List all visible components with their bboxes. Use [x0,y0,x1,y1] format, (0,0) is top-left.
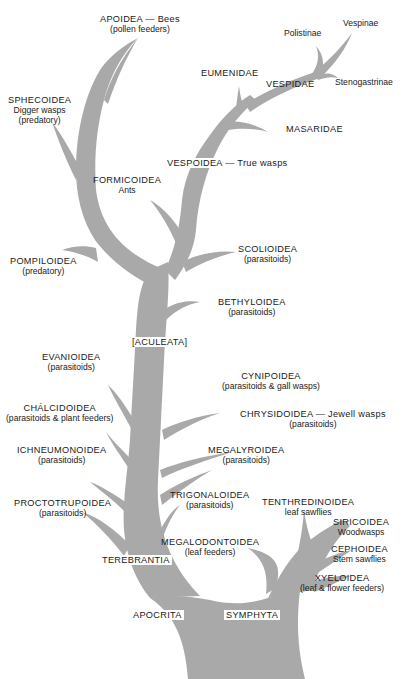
siricoidea-common: Woodwasps [333,527,389,537]
label-eumenidae: EUMENIDAE [201,68,258,78]
label-masaridae: MASARIDAE [286,124,343,134]
xyeloidea-name: XYELOIDEA [300,573,384,583]
pompiloidea-note: (predatory) [10,266,77,276]
vespoidea-name: VESPOIDEA — True wasps [165,158,289,168]
ichneumonoidea-note: (parasitoids) [17,455,106,465]
label-chrysidoidea: CHRYSIDOIDEA — Jewell wasps (parasitoids… [240,409,386,429]
megalodontoidea-note: (leaf feeders) [161,547,259,557]
label-chalcidoidea: CHÁLCIDOIDEA (parasitoids & plant feeder… [6,403,113,423]
branch-chalcidoidea [106,432,132,470]
cynipoidea-note: (parasitoids & gall wasps) [222,381,320,391]
cephoidea-common: Stem sawflies [331,554,388,564]
scolioidea-note: (parasitoids) [238,254,297,264]
label-vespoidea: VESPOIDEA — True wasps [165,158,289,168]
scolioidea-name: SCOLIOIDEA [238,244,297,254]
label-megalodontoidea: MEGALODONTOIDEA (leaf feeders) [161,537,259,557]
formicoidea-common: Ants [93,185,161,195]
tenthredinoidea-name: TENTHREDINOIDEA [262,497,354,507]
label-apocrita: APOCRITA [131,610,184,620]
label-vespidae: VESPIDAE [266,79,314,89]
label-evanioidea: EVANIOIDEA (parasitoids) [42,352,100,372]
megalyroidea-name: MEGALYROIDEA [208,445,284,455]
cynipoidea-name: CYNIPOIDEA [222,371,320,381]
polistinae-name: Polistinae [284,28,321,38]
proctotrupoidea-note: (parasitoids) [14,508,111,518]
label-megalyroidea: MEGALYROIDEA (parasitoids) [208,445,284,465]
label-polistinae: Polistinae [284,28,321,38]
branch-sphecoidea [52,122,80,180]
pompiloidea-name: POMPILOIDEA [10,256,77,266]
stenogastrinae-name: Stenogastrinae [335,77,393,87]
label-ichneumonoidea: ICHNEUMONOIDEA (parasitoids) [17,445,106,465]
branch-proctotrupoidea [82,512,130,556]
masaridae-name: MASARIDAE [286,124,343,134]
megalodontoidea-name: MEGALODONTOIDEA [161,537,259,547]
label-aculeata: [ACULEATA] [130,337,189,347]
eumenidae-name: EUMENIDAE [201,68,258,78]
label-cephoidea: CEPHOIDEA Stem sawflies [331,544,388,564]
label-stenogastrinae: Stenogastrinae [335,77,393,87]
label-tenthredinoidea: TENTHREDINOIDEA leaf sawflies [262,497,354,517]
label-sphecoidea: SPHECOIDEA Digger wasps (predatory) [8,95,71,125]
label-cynipoidea: CYNIPOIDEA (parasitoids & gall wasps) [222,371,320,391]
terebrantia-name: TEREBRANTIA [100,555,172,565]
apoidea-name: APOIDEA — Bees [100,14,180,24]
branch-vespidae [245,72,320,112]
bethyloidea-name: BETHYLOIDEA [218,297,286,307]
xyeloidea-note: (leaf & flower feeders) [300,583,384,593]
branch-root [150,590,305,679]
chrysidoidea-name: CHRYSIDOIDEA — Jewell wasps [240,409,386,419]
label-symphyta: SYMPHYTA [224,610,280,620]
trigonaloidea-name: TRIGONALOIDEA [170,490,249,500]
branch-formicoidea [150,200,184,248]
cephoidea-name: CEPHOIDEA [331,544,388,554]
branch-cynipoidea [162,413,220,440]
label-xyeloidea: XYELOIDEA (leaf & flower feeders) [300,573,384,593]
branch-bethyloidea [164,301,200,320]
proctotrupoidea-name: PROCTOTRUPOIDEA [14,498,111,508]
ichneumonoidea-name: ICHNEUMONOIDEA [17,445,106,455]
siricoidea-name: SIRICOIDEA [333,517,389,527]
label-proctotrupoidea: PROCTOTRUPOIDEA (parasitoids) [14,498,111,518]
label-pompiloidea: POMPILOIDEA (predatory) [10,256,77,276]
label-terebrantia: TEREBRANTIA [100,555,172,565]
label-trigonaloidea: TRIGONALOIDEA (parasitoids) [170,490,249,510]
bethyloidea-note: (parasitoids) [218,307,286,317]
sphecoidea-name: SPHECOIDEA [8,95,71,105]
sphecoidea-common: Digger wasps [8,105,71,115]
evanioidea-name: EVANIOIDEA [42,352,100,362]
apoidea-note: (pollen feeders) [100,24,180,34]
formicoidea-name: FORMICOIDEA [93,175,161,185]
label-scolioidea: SCOLIOIDEA (parasitoids) [238,244,297,264]
apocrita-name: APOCRITA [131,610,184,620]
chalcidoidea-name: CHÁLCIDOIDEA [6,403,113,413]
label-formicoidea: FORMICOIDEA Ants [93,175,161,195]
chrysidoidea-note: (parasitoids) [240,419,386,429]
vespinae-name: Vespinae [343,18,378,28]
megalyroidea-note: (parasitoids) [208,455,284,465]
vespidae-name: VESPIDAE [266,79,314,89]
evanioidea-note: (parasitoids) [42,362,100,372]
branch-eumenidae [236,86,244,108]
branch-scolioidea [182,251,236,272]
aculeata-name: [ACULEATA] [130,337,189,347]
sphecoidea-note: (predatory) [8,115,71,125]
branch-masaridae [226,121,268,132]
trigonaloidea-note: (parasitoids) [170,500,249,510]
label-bethyloidea: BETHYLOIDEA (parasitoids) [218,297,286,317]
label-siricoidea: SIRICOIDEA Woodwasps [333,517,389,537]
label-apoidea: APOIDEA — Bees (pollen feeders) [100,14,180,34]
label-vespinae: Vespinae [343,18,378,28]
chalcidoidea-note: (parasitoids & plant feeders) [6,413,113,423]
tenthredinoidea-common: leaf sawflies [262,507,354,517]
symphyta-name: SYMPHYTA [224,610,280,620]
